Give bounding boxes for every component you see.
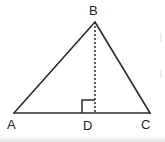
segment-bc: [95, 22, 150, 113]
vertex-label-d: D: [83, 119, 93, 132]
right-angle-marker: [82, 100, 95, 113]
geometry-figure: B A D C: [0, 0, 165, 142]
vertex-label-b: B: [89, 4, 98, 17]
vertex-label-a: A: [7, 118, 16, 131]
vertex-label-c: C: [141, 118, 151, 131]
